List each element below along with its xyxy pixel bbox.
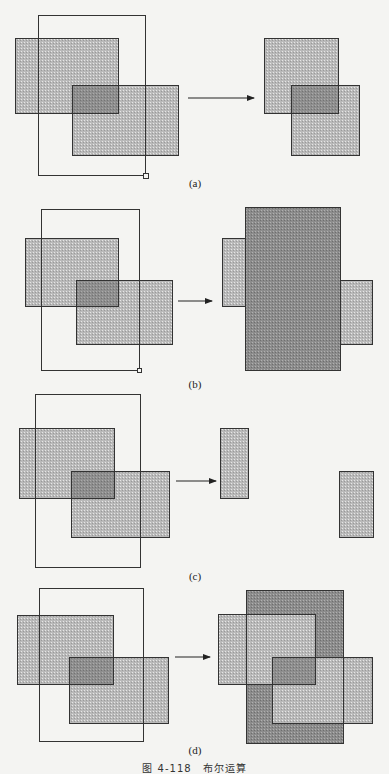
resize-handle-icon xyxy=(138,369,142,373)
source-overlap xyxy=(77,281,119,307)
result-overlap xyxy=(292,86,339,114)
result-right-strip xyxy=(341,281,373,345)
resize-handle-icon xyxy=(144,174,149,179)
panel-label-a: (a) xyxy=(165,177,225,189)
result-rect2-outside xyxy=(344,658,373,724)
result-union-block xyxy=(246,208,341,371)
result-right-strip xyxy=(340,472,374,538)
panel-label-c: (c) xyxy=(165,570,225,582)
source-overlap xyxy=(73,86,119,114)
figure-caption: 图 4-118 布尔运算 xyxy=(0,760,389,774)
panel-a xyxy=(16,16,360,179)
result-left-strip xyxy=(221,429,249,499)
panel-c xyxy=(20,395,374,568)
panel-d xyxy=(18,589,373,744)
panel-b xyxy=(26,208,373,373)
source-overlap xyxy=(70,658,114,685)
result-rect-overlap xyxy=(273,658,316,685)
panel-label-b: (b) xyxy=(165,378,225,390)
result-left-strip xyxy=(223,239,246,307)
source-overlap xyxy=(72,472,115,499)
panel-label-d: (d) xyxy=(165,744,225,756)
result-rect1-outside xyxy=(219,615,247,685)
